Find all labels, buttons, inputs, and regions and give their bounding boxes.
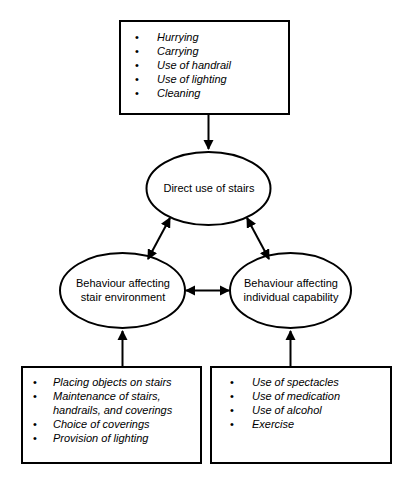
list-item: Placing objects on stairs	[23, 375, 200, 389]
list-item: Provision of lighting	[23, 431, 200, 445]
list-item: Use of medication	[212, 389, 390, 403]
list-item: Exercise	[212, 417, 390, 431]
arrow-direct-use-to-individual-capability	[247, 218, 269, 259]
list-item: Choice of coverings	[23, 417, 200, 431]
list-item: Maintenance of stairs, handrails, and co…	[23, 389, 200, 417]
list-item: Use of handrail	[121, 58, 288, 72]
list-item: Hurrying	[121, 30, 288, 44]
stair-environment-factors-list: Placing objects on stairs Maintenance of…	[23, 375, 200, 445]
top-factors-list: Hurrying Carrying Use of handrail Use of…	[121, 30, 288, 100]
list-item: Carrying	[121, 44, 288, 58]
list-item: Use of alcohol	[212, 403, 390, 417]
ellipse-behaviour-individual-capability	[230, 253, 351, 328]
list-item: Use of spectacles	[212, 375, 390, 389]
list-item: Cleaning	[121, 86, 288, 100]
arrow-direct-use-to-stair-environment	[148, 218, 170, 259]
ellipse-behaviour-stair-environment	[60, 253, 185, 328]
stair-environment-factors-box: Placing objects on stairs Maintenance of…	[21, 366, 202, 464]
individual-capability-factors-list: Use of spectacles Use of medication Use …	[212, 375, 390, 431]
top-factors-box: Hurrying Carrying Use of handrail Use of…	[119, 20, 290, 115]
ellipse-direct-use-of-stairs	[147, 152, 271, 225]
list-item: Use of lighting	[121, 72, 288, 86]
individual-capability-factors-box: Use of spectacles Use of medication Use …	[210, 366, 392, 464]
